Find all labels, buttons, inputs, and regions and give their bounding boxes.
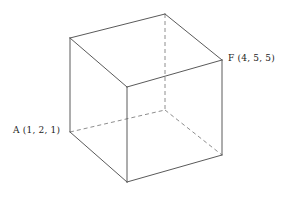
- vertex-label-a: A (1, 2, 1): [13, 126, 60, 135]
- edge-top-front-to-top-left-back: [70, 38, 127, 87]
- edge-top-right-front-to-top-front: [127, 60, 222, 87]
- edge-bottom-back-to-bottom-right: [165, 110, 222, 155]
- edge-top-back-to-top-right-front: [165, 14, 222, 60]
- edge-bottom-left-to-bottom-back: [70, 110, 165, 132]
- edge-top-left-back-to-top-back: [70, 14, 165, 38]
- cube-visible-edges: [70, 14, 222, 182]
- edge-bottom-left-to-bottom-front: [70, 132, 127, 182]
- vertex-label-f: F (4, 5, 5): [228, 54, 275, 63]
- cube-wireframe: [0, 0, 287, 198]
- cube-hidden-edges: [70, 14, 222, 155]
- cube-figure: A (1, 2, 1) F (4, 5, 5): [0, 0, 287, 198]
- edge-bottom-front-to-bottom-right: [127, 155, 222, 182]
